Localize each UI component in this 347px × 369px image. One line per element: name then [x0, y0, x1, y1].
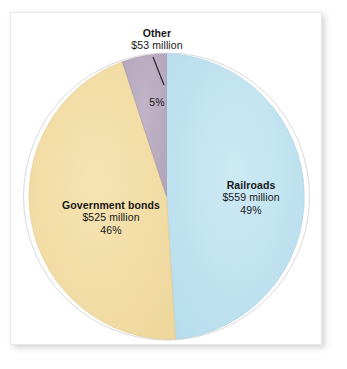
slice-label-railroads: Railroads $559 million 49%: [197, 179, 305, 216]
chart-panel: Other $53 million 5% Railroads $559 mill…: [10, 12, 322, 345]
slice-label-railroads-name: Railroads: [197, 179, 305, 191]
slice-label-government-bonds-name: Government bonds: [43, 199, 179, 211]
slice-label-government-bonds-amount: $525 million: [43, 211, 179, 223]
slice-label-railroads-amount: $559 million: [197, 191, 305, 203]
figure-caption-partial: [14, 356, 334, 369]
pie-chart-figure: Other $53 million 5% Railroads $559 mill…: [0, 0, 347, 369]
slice-label-other-amount: $53 million: [97, 39, 217, 51]
slice-label-government-bonds-percent: 46%: [43, 224, 179, 236]
other-leader-line: [141, 53, 181, 89]
slice-label-railroads-percent: 49%: [197, 204, 305, 216]
slice-percent-other: 5%: [137, 96, 177, 108]
slice-label-government-bonds: Government bonds $525 million 46%: [43, 199, 179, 236]
slice-label-other-name: Other: [97, 27, 217, 39]
slice-label-other: Other $53 million: [97, 27, 217, 52]
